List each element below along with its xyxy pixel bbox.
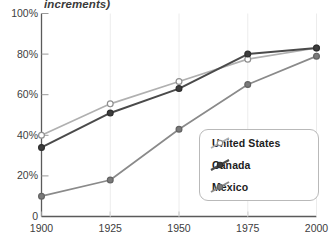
- legend-item-canada[interactable]: Canada: [208, 156, 251, 174]
- y-axis-label: 0: [0, 211, 38, 221]
- x-axis-label: 1900: [19, 223, 65, 233]
- data-point: [107, 110, 113, 116]
- data-point: [39, 145, 45, 151]
- data-point: [39, 132, 45, 138]
- legend-item-united-states[interactable]: United States: [208, 134, 280, 152]
- legend-swatch-mexico: [208, 178, 234, 196]
- legend-swatch-canada: [208, 156, 234, 174]
- data-point: [245, 82, 251, 88]
- x-axis-label: 2000: [294, 223, 333, 233]
- legend-swatch-united-states: [208, 134, 234, 152]
- data-point: [314, 53, 320, 59]
- y-axis-label: 80%: [0, 49, 38, 59]
- y-axis-label: 20%: [0, 170, 38, 180]
- data-point: [176, 126, 182, 132]
- y-axis-label: 60%: [0, 89, 38, 99]
- data-point: [314, 45, 320, 51]
- data-point: [245, 51, 251, 57]
- x-axis-label: 1975: [225, 223, 271, 233]
- data-point: [107, 101, 113, 107]
- x-axis-label: 1925: [87, 223, 133, 233]
- y-axis-label: 40%: [0, 130, 38, 140]
- legend-item-mexico[interactable]: Mexico: [208, 178, 248, 196]
- data-point: [39, 193, 45, 199]
- data-point: [176, 86, 182, 92]
- x-axis-label: 1950: [156, 223, 202, 233]
- data-point: [176, 79, 182, 85]
- chart-legend: United States Canada Mexico: [199, 129, 319, 201]
- data-point: [107, 177, 113, 183]
- y-axis-label: 100%: [0, 8, 38, 18]
